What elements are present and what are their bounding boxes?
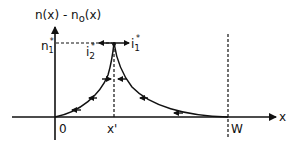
carrier-distribution-diagram: n(x) - no(x) n1* i2* i1* 0 x' W x — [0, 0, 291, 152]
current-i1-label: i1* — [131, 34, 140, 53]
current-i2-label: i2* — [86, 42, 95, 61]
curve-left-branch — [55, 43, 114, 117]
x-axis-label: x — [279, 110, 286, 124]
diagram-canvas: n(x) - no(x) n1* i2* i1* 0 x' W x — [0, 0, 291, 152]
peak-point — [112, 42, 116, 46]
peak-position-label: x' — [107, 122, 117, 136]
curve-right-branch — [114, 43, 228, 117]
boundary-label: W — [231, 122, 243, 136]
y-axis-label: n(x) - no(x) — [35, 8, 101, 24]
origin-label: 0 — [59, 122, 67, 136]
peak-value-label: n1* — [41, 37, 54, 55]
